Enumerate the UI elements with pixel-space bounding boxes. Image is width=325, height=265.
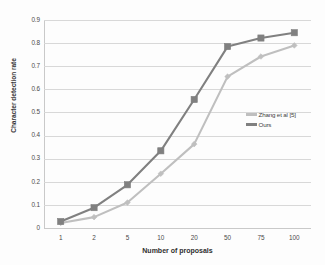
data-point-marker <box>258 35 264 41</box>
chart-legend: Zhang et al [5]Ours <box>246 110 316 130</box>
data-point-marker <box>58 218 64 224</box>
legend-label: Zhang et al [5] <box>259 111 296 118</box>
chart-figure: 00.10.20.30.40.50.60.70.80.9 Character d… <box>0 0 325 265</box>
data-point-marker <box>124 182 130 188</box>
legend-label: Ours <box>259 121 272 128</box>
legend-swatch-icon <box>246 113 257 115</box>
legend-swatch-icon <box>246 123 257 125</box>
data-point-marker <box>91 205 97 211</box>
data-point-marker <box>158 148 164 154</box>
data-point-marker <box>292 43 298 49</box>
series-plot <box>0 0 325 265</box>
legend-item: Zhang et al [5] <box>246 110 316 119</box>
data-point-marker <box>191 96 197 102</box>
series-line <box>61 45 295 222</box>
legend-item: Ours <box>246 120 316 129</box>
data-point-marker <box>224 43 230 49</box>
data-point-marker <box>291 30 297 36</box>
